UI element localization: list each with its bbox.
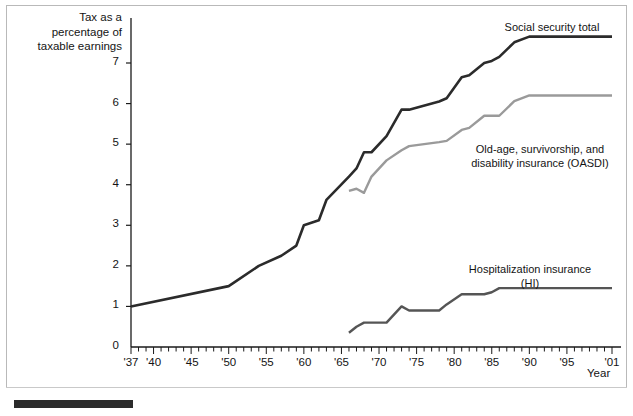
x-tick-label: '70 <box>362 356 396 368</box>
y-tick-label: 4 <box>99 177 119 189</box>
axis-ticks <box>126 63 612 354</box>
y-tick-label: 1 <box>99 298 119 310</box>
x-tick-label: '55 <box>249 356 283 368</box>
y-tick-label: 6 <box>99 96 119 108</box>
chart-plot-area <box>0 0 633 416</box>
axis-lines <box>131 18 621 347</box>
y-tick-label: 5 <box>99 136 119 148</box>
decorative-bottom-bar <box>14 400 133 408</box>
x-tick-label: '50 <box>212 356 246 368</box>
y-tick-label: 0 <box>99 339 119 351</box>
annotation-oasdi: Old-age, survivorship, and disability in… <box>455 142 625 170</box>
x-tick-label: '60 <box>287 356 321 368</box>
x-tick-label: '75 <box>400 356 434 368</box>
annotation-social-security-total: Social security total <box>482 20 622 34</box>
y-tick-label: 7 <box>99 55 119 67</box>
x-tick-label: '95 <box>550 356 584 368</box>
y-tick-label: 3 <box>99 217 119 229</box>
figure-container: Tax as a percentage of taxable earnings … <box>0 0 633 416</box>
x-axis-title: Year <box>587 367 610 379</box>
y-tick-label: 2 <box>99 258 119 270</box>
x-tick-label: '80 <box>437 356 471 368</box>
x-tick-label: '90 <box>512 356 546 368</box>
x-tick-label: '65 <box>324 356 358 368</box>
x-tick-label: '45 <box>174 356 208 368</box>
x-tick-label: '40 <box>137 356 171 368</box>
series-line <box>349 288 612 333</box>
annotation-hi: Hospitalization insurance (HI) <box>440 262 620 290</box>
x-tick-label: '85 <box>475 356 509 368</box>
